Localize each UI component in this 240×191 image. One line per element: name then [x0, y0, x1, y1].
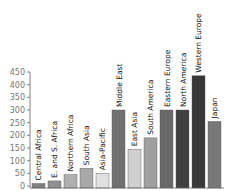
bar-label: Middle East [115, 64, 124, 107]
y-tick-label: 0 [20, 182, 25, 191]
y-tick-label: 300 [10, 106, 25, 115]
bar-label: Northern Africa [67, 115, 76, 172]
bar-central-africa [32, 183, 45, 188]
bars: Central AfricaE. and S. AfricaNorthern A… [32, 13, 221, 188]
y-axis: 050100150200250300350400450 [10, 68, 30, 191]
bar-south-america [144, 138, 157, 188]
bar-middle-east [112, 110, 125, 188]
y-tick-label: 100 [10, 157, 25, 166]
y-tick-label: 450 [10, 68, 25, 77]
y-tick-label: 400 [10, 81, 25, 90]
bar-label: East Asia [131, 112, 140, 146]
bar-e-and-s-africa [48, 181, 61, 188]
bar-label: North America [179, 53, 188, 107]
y-tick-label: 50 [15, 169, 25, 178]
y-tick-label: 250 [10, 119, 25, 128]
bar-label: Japan [211, 97, 220, 119]
y-tick-label: 150 [10, 144, 25, 153]
bar-label: Asia-Pacific [99, 128, 108, 170]
y-tick-label: 350 [10, 93, 25, 102]
bar-north-america [176, 110, 189, 188]
bar-south-asia [80, 168, 93, 188]
bar-label: E. and S. Africa [51, 121, 60, 178]
bar-northern-africa [64, 175, 77, 188]
bar-east-asia [128, 149, 141, 188]
bar-japan [208, 121, 221, 188]
bar-western-europe [192, 76, 205, 188]
bar-asia-pacific [96, 173, 109, 188]
bar-eastern-europe [160, 110, 173, 188]
bar-label: South America [147, 80, 156, 135]
bar-label: Western Europe [195, 13, 204, 73]
bar-chart: 050100150200250300350400450 Central Afri… [0, 0, 240, 191]
bar-label: South Asia [83, 125, 92, 165]
y-tick-label: 200 [10, 131, 25, 140]
bar-label: Central Africa [35, 129, 44, 180]
bar-label: Eastern Europe [163, 49, 172, 107]
